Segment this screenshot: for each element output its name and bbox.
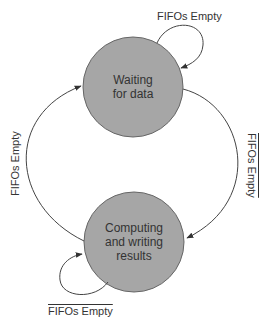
state-computing-label: Computing and writing results	[105, 221, 163, 263]
state-waiting-line1: Waiting	[113, 73, 154, 87]
state-computing-line2: and writing	[105, 235, 163, 249]
state-diagram: Waiting for data Computing and writing r…	[0, 0, 266, 320]
state-waiting-label: Waiting for data	[113, 73, 154, 101]
edge-label-computing-to-waiting: FIFOs Empty	[9, 131, 21, 196]
edge-waiting-to-computing	[183, 89, 238, 238]
edge-label-computing-self: FIFOs Empty	[48, 305, 113, 317]
edge-label-waiting-self: FIFOs Empty	[157, 10, 222, 22]
edge-computing-to-waiting	[26, 86, 84, 241]
state-waiting-line2: for data	[113, 87, 154, 101]
state-computing-line1: Computing	[105, 221, 163, 235]
diagram-canvas	[0, 0, 266, 320]
state-computing-line3: results	[105, 249, 163, 263]
edge-label-waiting-to-computing: FIFOs Empty	[246, 133, 258, 198]
